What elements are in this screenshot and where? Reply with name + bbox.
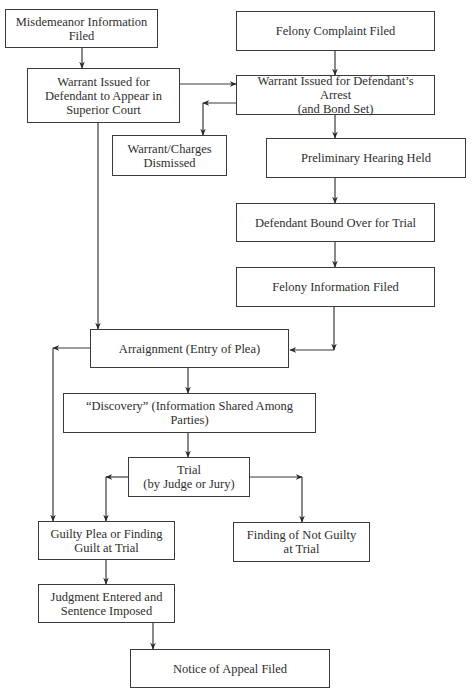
node-defendant-bound-over: Defendant Bound Over for Trial [236, 203, 435, 242]
node-trial: Trial (by Judge or Jury) [128, 457, 250, 497]
node-warrant-charges-dismissed: Warrant/Charges Dismissed [112, 135, 227, 176]
node-preliminary-hearing-held: Preliminary Hearing Held [266, 138, 466, 178]
node-guilty-plea-or-finding: Guilty Plea or Finding Guilt at Trial [38, 521, 175, 560]
node-warrant-appear-superior-court: Warrant Issued for Defendant to Appear i… [27, 68, 180, 123]
node-judgment-sentence: Judgment Entered and Sentence Imposed [38, 584, 175, 623]
flowchart-canvas: Misdemeanor Information Filed Felony Com… [0, 0, 473, 689]
node-notice-of-appeal-filed: Notice of Appeal Filed [130, 649, 330, 688]
node-felony-complaint-filed: Felony Complaint Filed [236, 11, 435, 51]
node-felony-information-filed: Felony Information Filed [236, 267, 435, 307]
node-warrant-defendant-arrest: Warrant Issued for Defendant’s Arrest (a… [236, 75, 435, 115]
node-discovery: “Discovery” (Information Shared Among Pa… [63, 393, 316, 433]
node-arraignment: Arraignment (Entry of Plea) [90, 329, 289, 368]
node-misdemeanor-information-filed: Misdemeanor Information Filed [5, 9, 158, 48]
node-finding-not-guilty: Finding of Not Guilty at Trial [233, 522, 370, 562]
